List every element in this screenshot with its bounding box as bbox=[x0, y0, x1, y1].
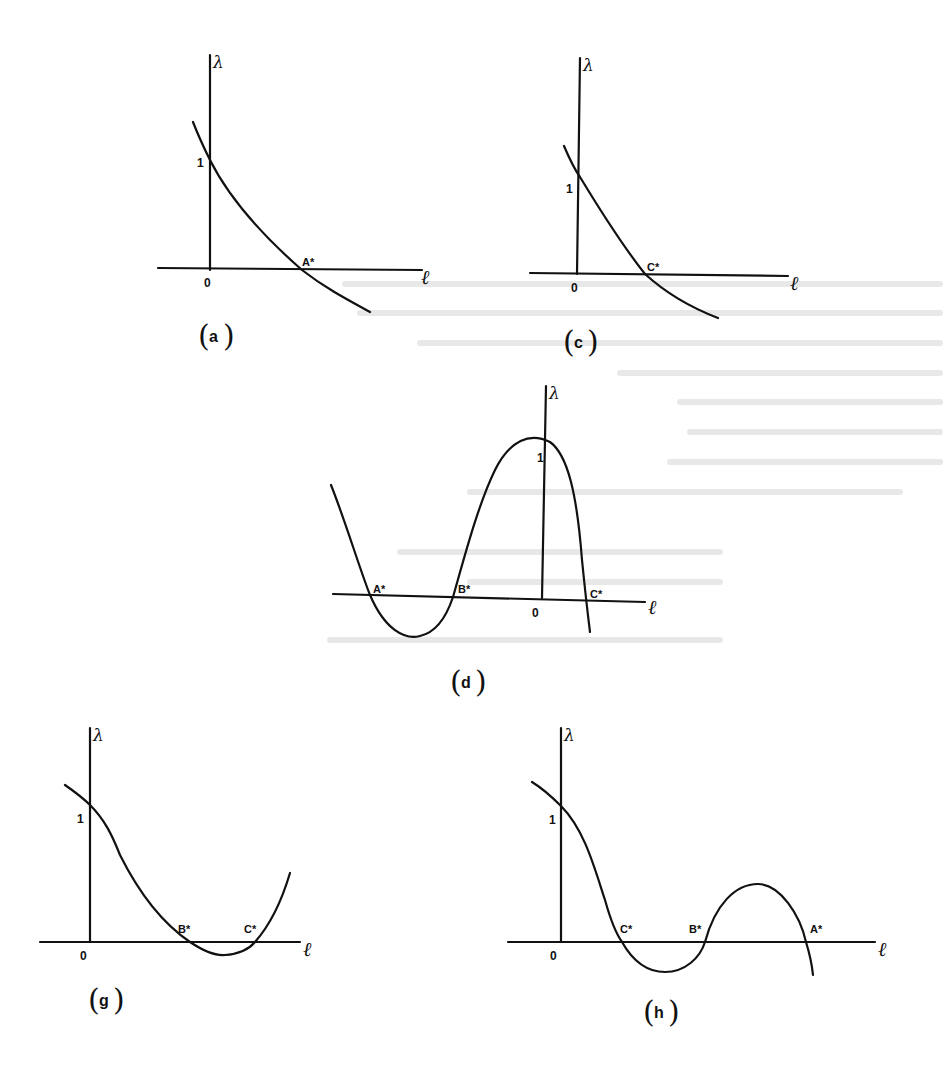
lambda-label: λ bbox=[563, 725, 575, 745]
caption-paren-open: ( bbox=[643, 994, 655, 1029]
caption-h: h bbox=[654, 1004, 664, 1021]
ell-label: ℓ bbox=[878, 937, 887, 961]
curve bbox=[532, 782, 813, 975]
unit-tick-label: 1 bbox=[549, 813, 556, 827]
panel-h: λ 1 0 C* B* A* ℓ ( h ) bbox=[0, 0, 944, 1088]
point-label-c-star: C* bbox=[620, 923, 633, 935]
origin-label: 0 bbox=[550, 949, 557, 963]
point-label-b-star: B* bbox=[689, 923, 702, 935]
point-label-a-star: A* bbox=[810, 923, 823, 935]
caption-paren-close: ) bbox=[668, 994, 680, 1029]
